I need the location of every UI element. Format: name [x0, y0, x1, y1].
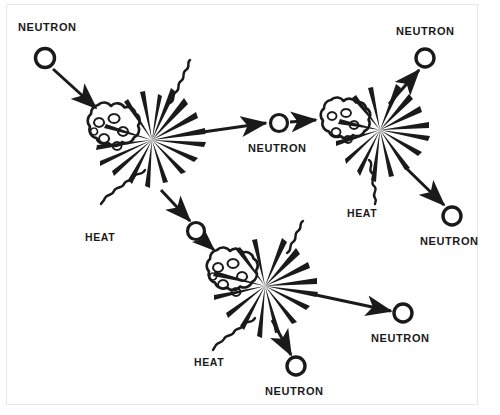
neutron-bottom-right-circle [394, 304, 412, 322]
label-heat-bottom: HEAT [194, 357, 224, 368]
arrow-incoming-to-fission1 [53, 69, 96, 108]
label-neutron-incoming: NEUTRON [18, 22, 77, 33]
arrow-fission2-to-neutron-right [406, 168, 444, 205]
arrow-fission3-to-neutron-bottom-center [272, 320, 291, 355]
label-neutron-top-right: NEUTRON [396, 26, 455, 37]
fission-event-3 [207, 238, 318, 338]
arrow-neutron-middle-to-fission2 [290, 120, 316, 122]
arrow-fission2-to-neutron-top-right [389, 70, 419, 104]
neutron-bottom-left-circle [188, 223, 205, 240]
fission-diagram-canvas [0, 0, 500, 415]
label-neutron-right: NEUTRON [420, 236, 479, 247]
label-heat-left: HEAT [85, 232, 115, 243]
neutron-bottom-center-circle [287, 357, 305, 375]
arrow-neutron-bottom-left-to-fission3 [202, 239, 214, 250]
fission-chain-reaction-figure: NEUTRON NEUTRON NEUTRON NEUTRON NEUTRON … [0, 0, 500, 415]
arrow-fission3-to-neutron-bottom-right [316, 295, 391, 311]
label-neutron-bottom-right: NEUTRON [371, 333, 430, 344]
heat-squiggle-fission3-upper [287, 221, 303, 253]
label-heat-right: HEAT [347, 208, 377, 219]
neutron-incoming-circle [36, 49, 55, 68]
neutron-circles [36, 49, 462, 376]
label-neutron-middle: NEUTRON [248, 143, 307, 154]
neutron-arrows [53, 69, 444, 355]
fission-burst-1 [96, 88, 206, 188]
neutron-top-right-circle [416, 49, 434, 67]
arrow-fission1-to-neutron-middle [196, 123, 266, 133]
fission-event-2 [321, 84, 430, 182]
fission-event-1 [88, 88, 206, 188]
arrow-fission1-to-neutron-bottom-left [161, 190, 190, 221]
neutron-middle-circle [271, 115, 288, 132]
heat-squiggle-fission3-lower [213, 318, 255, 350]
label-neutron-bottom-center: NEUTRON [265, 386, 324, 397]
heat-squiggle-fission1-lower [101, 170, 145, 204]
heat-squiggle-fission1-upper [170, 60, 190, 103]
neutron-right-circle [443, 207, 461, 225]
